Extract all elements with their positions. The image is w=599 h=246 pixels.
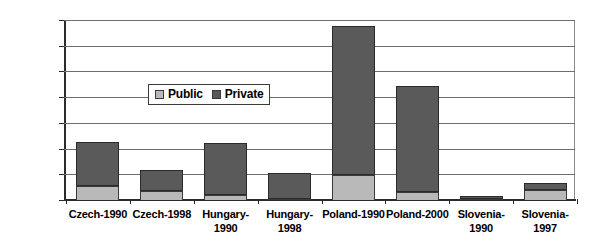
y-axis-tick-mark bbox=[59, 123, 64, 124]
bar-segment-public bbox=[460, 199, 503, 200]
bars-layer bbox=[66, 20, 575, 200]
bar-segment-private bbox=[204, 143, 247, 194]
bar-segment-private bbox=[332, 26, 375, 175]
x-axis-label-hungary-1990: Hungary-1990 bbox=[194, 207, 258, 235]
bar-czech-1990 bbox=[76, 142, 119, 200]
y-axis-tick-mark bbox=[59, 46, 64, 47]
y-axis-tick-mark bbox=[59, 71, 64, 72]
chart-legend: Public Private bbox=[148, 84, 270, 105]
legend-swatch-private-icon bbox=[212, 90, 221, 99]
legend-label-private: Private bbox=[225, 87, 264, 101]
bar-segment-private bbox=[268, 173, 311, 199]
bar-segment-public bbox=[268, 199, 311, 200]
bar-segment-public bbox=[524, 190, 567, 200]
y-axis-tick-mark bbox=[59, 200, 64, 201]
y-axis-tick-mark bbox=[59, 149, 64, 150]
bar-segment-private bbox=[396, 86, 439, 193]
bar-segment-private bbox=[76, 142, 119, 186]
legend-swatch-public-icon bbox=[155, 90, 164, 99]
bar-hungary-1998 bbox=[268, 173, 311, 200]
legend-item-public: Public bbox=[155, 87, 203, 101]
x-axis-label-slovenia-1997: Slovenia-1997 bbox=[513, 207, 577, 235]
legend-item-private: Private bbox=[212, 87, 264, 101]
bar-poland-2000 bbox=[396, 86, 439, 200]
stacked-bar-chart: 020000400006000080000100000120000140000 … bbox=[0, 0, 599, 246]
y-axis-tick-mark bbox=[59, 174, 64, 175]
bar-czech-1998 bbox=[140, 170, 183, 200]
bar-segment-public bbox=[396, 192, 439, 200]
x-axis-label-hungary-1998: Hungary-1998 bbox=[258, 207, 322, 235]
x-axis-label-czech-1998: Czech-1998 bbox=[130, 207, 194, 221]
legend-label-public: Public bbox=[168, 87, 203, 101]
bar-segment-public bbox=[332, 175, 375, 200]
y-axis-tick-mark bbox=[59, 20, 64, 21]
x-axis-label-poland-2000: Poland-2000 bbox=[385, 207, 449, 221]
bar-segment-public bbox=[204, 195, 247, 200]
x-axis-label-slovenia-1990: Slovenia-1990 bbox=[449, 207, 513, 235]
x-axis-label-czech-1990: Czech-1990 bbox=[66, 207, 130, 221]
bar-slovenia-1997 bbox=[524, 183, 567, 200]
bar-segment-public bbox=[76, 186, 119, 200]
y-axis-tick-mark bbox=[59, 97, 64, 98]
bar-segment-private bbox=[524, 183, 567, 190]
bar-segment-public bbox=[140, 191, 183, 200]
x-axis-label-poland-1990: Poland-1990 bbox=[322, 207, 386, 221]
bar-slovenia-1990 bbox=[460, 196, 503, 200]
bar-hungary-1990 bbox=[204, 143, 247, 200]
x-axis-tick-mark bbox=[577, 199, 578, 204]
bar-segment-private bbox=[140, 170, 183, 191]
bar-poland-1990 bbox=[332, 26, 375, 200]
